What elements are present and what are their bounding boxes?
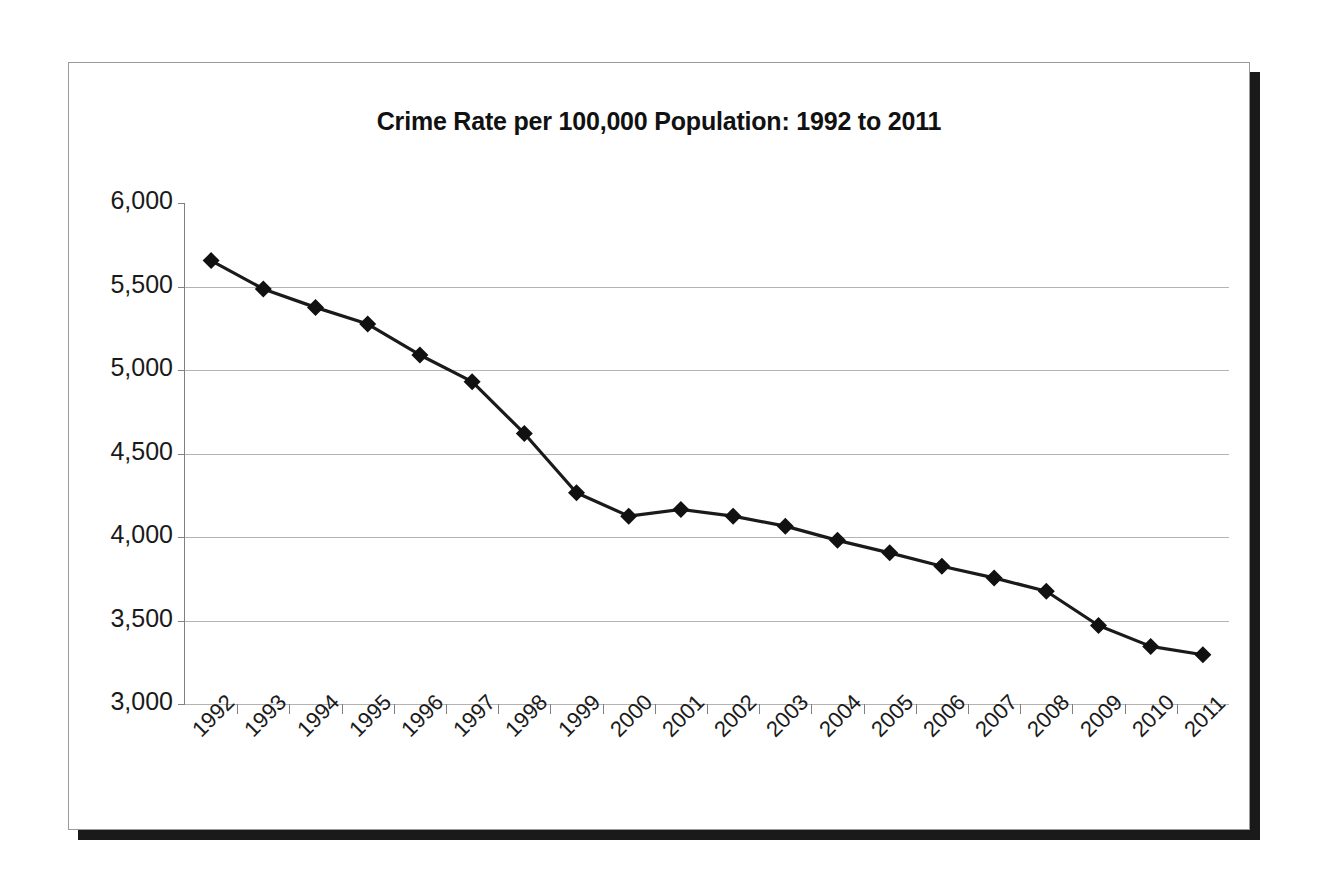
data-point-marker	[933, 558, 950, 575]
data-point-marker	[411, 346, 428, 363]
y-axis-label: 3,000	[53, 687, 173, 716]
y-axis-label: 5,500	[53, 270, 173, 299]
data-point-marker	[307, 299, 324, 316]
plot-area: 6,0005,5005,0004,5004,0003,5003,000 1992…	[185, 203, 1229, 704]
data-point-marker	[777, 518, 794, 535]
data-series-crime-rate	[185, 203, 1229, 704]
y-axis-label: 4,000	[53, 520, 173, 549]
data-point-marker	[359, 316, 376, 333]
data-point-marker	[881, 544, 898, 561]
data-point-marker	[1194, 646, 1211, 663]
y-axis-tick	[178, 370, 185, 371]
data-point-marker	[203, 252, 220, 269]
y-axis-tick	[178, 454, 185, 455]
chart-frame: Crime Rate per 100,000 Population: 1992 …	[68, 62, 1250, 830]
y-axis-tick	[178, 287, 185, 288]
data-point-marker	[255, 281, 272, 298]
y-axis-label: 6,000	[53, 186, 173, 215]
y-axis-label: 4,500	[53, 437, 173, 466]
data-point-marker	[986, 569, 1003, 586]
chart-title: Crime Rate per 100,000 Population: 1992 …	[69, 107, 1249, 136]
data-point-marker	[829, 532, 846, 549]
y-axis-tick	[178, 621, 185, 622]
y-axis-tick	[178, 203, 185, 204]
chart-page: Crime Rate per 100,000 Population: 1992 …	[0, 0, 1334, 888]
series-line	[211, 261, 1203, 655]
data-point-marker	[1090, 617, 1107, 634]
data-point-marker	[620, 508, 637, 525]
data-point-marker	[672, 501, 689, 518]
y-axis-tick	[178, 704, 185, 705]
data-point-marker	[1038, 583, 1055, 600]
data-point-marker	[1142, 638, 1159, 655]
y-axis-label: 3,500	[53, 604, 173, 633]
y-axis-tick	[178, 537, 185, 538]
y-axis-label: 5,000	[53, 353, 173, 382]
data-point-marker	[725, 508, 742, 525]
